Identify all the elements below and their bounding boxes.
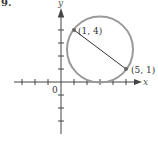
x-arrow-icon (134, 79, 142, 85)
x-axis (14, 79, 142, 85)
coordinate-diagram: (1, 4) (5, 1) x y 0 (0, 0, 158, 143)
point-label-1-4: (1, 4) (78, 26, 102, 36)
x-axis-label: x (143, 77, 148, 87)
point-1-4 (72, 28, 76, 32)
y-axis (58, 8, 64, 134)
y-arrow-icon (58, 8, 64, 17)
y-axis-label: y (57, 0, 64, 8)
origin-label: 0 (52, 85, 58, 95)
point-label-5-1: (5, 1) (131, 65, 155, 75)
point-5-1 (124, 67, 128, 71)
